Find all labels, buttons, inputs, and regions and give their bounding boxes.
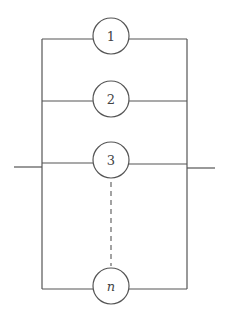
parallel-system-diagram: 1 2 3 n xyxy=(0,0,228,319)
component-3-label: 3 xyxy=(107,153,115,168)
branch-n: n xyxy=(42,268,187,304)
branch-2: 2 xyxy=(42,81,187,117)
component-n-label: n xyxy=(107,279,115,294)
branch-1: 1 xyxy=(42,18,187,54)
component-1-label: 1 xyxy=(107,29,115,44)
branch-3: 3 xyxy=(42,142,187,178)
component-2-label: 2 xyxy=(107,92,115,107)
